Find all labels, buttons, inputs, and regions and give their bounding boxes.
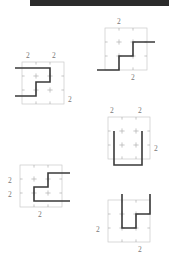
- label-bottom: 2: [138, 246, 142, 254]
- label-top-right: 2: [52, 52, 56, 60]
- staircase-notch-down-canvas: [94, 186, 164, 256]
- label-right: 2: [68, 96, 72, 104]
- label-bottom: 2: [131, 74, 135, 82]
- staircase-up-right-canvas: [91, 14, 161, 84]
- label-top-right: 2: [138, 107, 142, 115]
- staircase-left-facing-canvas: [8, 48, 78, 118]
- grid-layer: [105, 28, 147, 70]
- label-bottom: 2: [38, 211, 42, 219]
- staircase-notch-down: 22: [108, 200, 150, 242]
- top-black-bar: [30, 0, 169, 6]
- staircase-right-facing-polyline: [34, 173, 70, 201]
- staircase-left-facing: 222: [22, 62, 64, 104]
- grid-border: [105, 28, 147, 70]
- label-top-left: 2: [26, 52, 30, 60]
- label-right: 2: [154, 145, 158, 153]
- grid-layer: [108, 200, 150, 242]
- label-left-upper: 2: [8, 177, 12, 185]
- staircase-notch-down-polyline: [122, 194, 150, 228]
- label-top: 2: [117, 18, 121, 26]
- u-shape-open-top: 222: [108, 117, 150, 159]
- u-shape-open-top-canvas: [94, 103, 164, 173]
- label-top-left: 2: [110, 107, 114, 115]
- staircase-up-right: 22: [105, 28, 147, 70]
- staircase-left-facing-polyline: [15, 68, 50, 96]
- label-left: 2: [96, 226, 100, 234]
- label-left-lower: 2: [8, 191, 12, 199]
- u-shape-open-top-polyline: [114, 131, 142, 165]
- grid-border: [108, 200, 150, 242]
- staircase-right-facing: 222: [20, 165, 62, 207]
- diagram-page: 2222222222222: [0, 0, 175, 271]
